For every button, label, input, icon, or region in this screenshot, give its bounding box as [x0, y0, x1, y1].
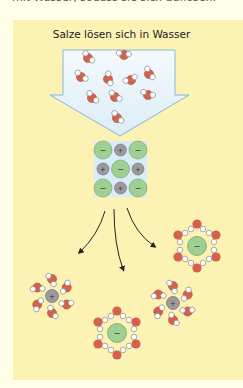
svg-text:−: − [117, 165, 124, 174]
svg-text:+: + [135, 166, 141, 174]
svg-text:+: + [170, 300, 176, 308]
svg-text:+: + [118, 185, 124, 193]
svg-text:−: − [100, 146, 107, 155]
svg-text:+: + [100, 166, 106, 174]
hydrated-anion-right: − [173, 219, 220, 272]
crystal-ions: − + − + − + − + − [94, 141, 147, 197]
svg-text:−: − [194, 242, 201, 251]
dissolution-diagram: − + − + − + − + − + + [0, 0, 243, 388]
svg-text:+: + [118, 147, 124, 155]
svg-text:−: − [114, 329, 121, 338]
svg-text:−: − [100, 184, 107, 193]
svg-text:−: − [135, 146, 142, 155]
hydrated-cation-left: + [29, 272, 75, 320]
svg-text:−: − [135, 184, 142, 193]
down-arrow-shape [50, 50, 189, 136]
salt-crystal: − + − + − + − + − [94, 141, 147, 197]
hydrated-anion-bottom: − [93, 306, 140, 359]
svg-text:+: + [49, 293, 55, 301]
hydrated-cation-right: + [150, 279, 196, 327]
dissolution-arrows [80, 208, 154, 269]
